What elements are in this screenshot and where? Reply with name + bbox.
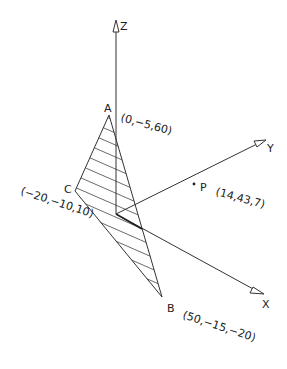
point-p-coords: (14,43,7) [214, 185, 266, 211]
3d-triangle-diagram: Z Y X A (0,−5,60) C (−20,−10,10) B (50,−… [0, 0, 287, 369]
x-arrow-icon [250, 287, 264, 294]
point-p-marker [193, 183, 196, 186]
point-c-label: C [64, 183, 72, 196]
point-a-coords: (0,−5,60) [119, 111, 173, 137]
point-b-coords: (50,−15,−20) [181, 308, 257, 344]
x-axis-label: X [262, 298, 270, 311]
y-arrow-icon [254, 140, 266, 147]
point-a-label: A [104, 102, 112, 115]
z-axis-label: Z [120, 20, 128, 33]
point-b-label: B [167, 302, 175, 315]
point-p-label: P [200, 181, 207, 194]
z-axis [113, 20, 119, 214]
y-axis-label: Y [266, 142, 274, 155]
z-arrow-icon [113, 20, 119, 32]
